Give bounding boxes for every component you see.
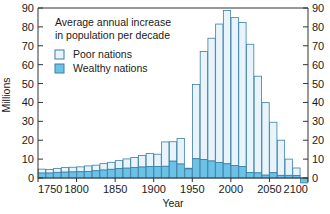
bar-group bbox=[169, 142, 176, 178]
chart-canvas: 0102030405060708090 0102030405060708090 … bbox=[0, 0, 330, 214]
bar-group bbox=[46, 170, 53, 179]
bar-segment-poor-nations bbox=[177, 139, 184, 165]
bar-segment-poor-nations bbox=[223, 10, 230, 163]
bar-segment-poor-nations bbox=[285, 159, 292, 175]
bar-segment-poor-nations bbox=[154, 154, 161, 166]
bar-group bbox=[84, 166, 91, 178]
bar-segment-poor-nations bbox=[38, 169, 45, 173]
bar-segment-wealthy-nations bbox=[270, 173, 277, 178]
bar-segment-wealthy-nations bbox=[192, 159, 199, 178]
bar-group bbox=[38, 169, 45, 178]
bar-segment-poor-nations bbox=[100, 164, 107, 170]
legend-swatch-wealthy-nations bbox=[55, 64, 64, 73]
bar-segment-poor-nations bbox=[169, 142, 176, 161]
bar-segment-poor-nations bbox=[108, 162, 115, 169]
y-tick-label-right: 10 bbox=[312, 153, 324, 165]
bar-group bbox=[239, 23, 246, 178]
x-tick-label: 1950 bbox=[180, 183, 204, 195]
y-tick-label-right: 40 bbox=[312, 96, 324, 108]
y-tick-label-right: 70 bbox=[312, 40, 324, 52]
bar-group bbox=[246, 44, 253, 178]
bar-segment-poor-nations bbox=[84, 166, 91, 171]
x-tick-label: 1900 bbox=[141, 183, 165, 195]
bar-segment-poor-nations bbox=[61, 168, 68, 173]
bar-segment-wealthy-nations bbox=[246, 173, 253, 178]
bar-group bbox=[177, 139, 184, 178]
bar-segment-poor-nations bbox=[46, 170, 53, 174]
bar-segment-poor-nations bbox=[77, 167, 84, 172]
bar-segment-poor-nations bbox=[208, 38, 215, 161]
y-axis-title: Millions bbox=[0, 77, 12, 112]
bar-segment-wealthy-nations bbox=[200, 159, 207, 178]
bar-segment-wealthy-nations bbox=[54, 172, 61, 178]
bar-segment-poor-nations bbox=[277, 140, 284, 175]
x-tick-label: 2100 bbox=[284, 183, 308, 195]
x-tick-label: 1800 bbox=[64, 183, 88, 195]
bar-group bbox=[115, 161, 122, 178]
bar-group bbox=[131, 157, 138, 178]
bar-group bbox=[108, 162, 115, 178]
bar-segment-poor-nations bbox=[239, 23, 246, 167]
bar-segment-wealthy-nations bbox=[77, 172, 84, 178]
bar-segment-poor-nations bbox=[246, 44, 253, 172]
bar-segment-poor-nations bbox=[162, 142, 169, 166]
bar-segment-wealthy-nations bbox=[254, 173, 261, 178]
legend-label-poor-nations: Poor nations bbox=[73, 48, 132, 60]
bar-segment-wealthy-nations bbox=[115, 169, 122, 178]
y-tick-label: 60 bbox=[22, 59, 34, 71]
x-tick-label: 2000 bbox=[219, 183, 243, 195]
bar-group bbox=[231, 18, 238, 178]
legend-swatch-poor-nations bbox=[55, 50, 64, 59]
bar-segment-poor-nations bbox=[231, 18, 238, 166]
y-tick-label-right: 30 bbox=[312, 115, 324, 127]
bar-group bbox=[208, 38, 215, 178]
y-tick-label: 20 bbox=[22, 134, 34, 146]
bar-group bbox=[223, 10, 230, 178]
bar-group bbox=[69, 167, 76, 178]
bar-group bbox=[138, 156, 145, 178]
y-tick-label-right: 20 bbox=[312, 134, 324, 146]
y-tick-label-right: 90 bbox=[312, 2, 324, 14]
y-tick-label: 0 bbox=[28, 172, 34, 184]
bar-group bbox=[262, 103, 269, 178]
bar-group bbox=[61, 168, 68, 178]
bar-group bbox=[146, 153, 153, 178]
y-tick-label-right: 0 bbox=[312, 172, 318, 184]
x-axis-title: Year bbox=[162, 197, 184, 209]
bar-segment-wealthy-nations bbox=[146, 167, 153, 178]
bar-segment-poor-nations bbox=[270, 122, 277, 172]
bar-group bbox=[277, 140, 284, 178]
y-tick-label: 10 bbox=[22, 153, 34, 165]
chart-annotation: Average annual increase in population pe… bbox=[55, 16, 171, 41]
bar-segment-wealthy-nations bbox=[131, 167, 138, 178]
bar-segment-poor-nations bbox=[262, 103, 269, 176]
bar-segment-wealthy-nations bbox=[231, 166, 238, 178]
bar-segment-wealthy-nations bbox=[177, 164, 184, 178]
bar-segment-wealthy-nations bbox=[108, 169, 115, 178]
bar-group bbox=[54, 169, 61, 178]
bar-segment-wealthy-nations bbox=[169, 161, 176, 178]
bar-group bbox=[254, 76, 261, 178]
y-tick-label: 80 bbox=[22, 21, 34, 33]
x-tick-label: 1850 bbox=[103, 183, 127, 195]
bar-segment-poor-nations bbox=[92, 165, 99, 171]
y-tick-label-right: 50 bbox=[312, 78, 324, 90]
bar-segment-poor-nations bbox=[192, 85, 199, 159]
bar-segment-wealthy-nations bbox=[46, 173, 53, 178]
bar-segment-poor-nations bbox=[131, 157, 138, 167]
bar-segment-poor-nations bbox=[254, 76, 261, 173]
bar-segment-poor-nations bbox=[54, 169, 61, 173]
legend-label-wealthy-nations: Wealthy nations bbox=[73, 62, 148, 74]
bar-segment-wealthy-nations bbox=[123, 168, 130, 178]
y-tick-label: 40 bbox=[22, 96, 34, 108]
bar-segment-poor-nations bbox=[69, 167, 76, 172]
x-tick-label: 1750 bbox=[38, 183, 62, 195]
bar-group bbox=[200, 51, 207, 178]
bar-segment-wealthy-nations bbox=[223, 164, 230, 178]
bar-segment-wealthy-nations bbox=[208, 161, 215, 178]
bar-group bbox=[285, 159, 292, 178]
bar-segment-wealthy-nations bbox=[239, 166, 246, 178]
x-tick-label: 2050 bbox=[257, 183, 281, 195]
bar-segment-poor-nations bbox=[123, 159, 130, 168]
bar-group bbox=[154, 154, 161, 178]
